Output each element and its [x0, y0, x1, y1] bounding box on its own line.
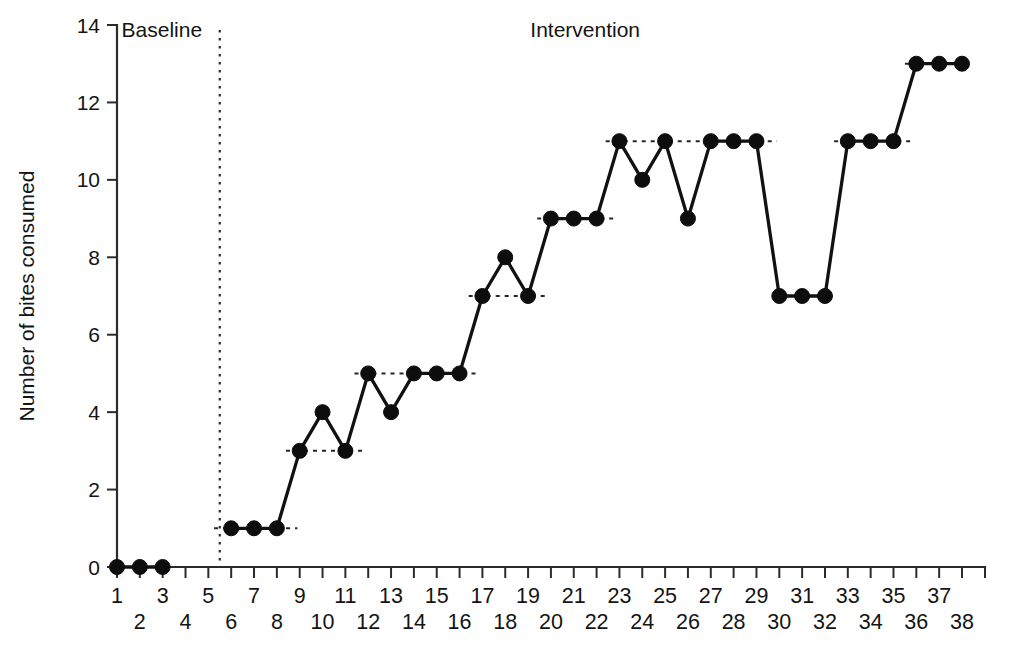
x-tick-label-odd: 15 [425, 584, 449, 608]
data-point [543, 211, 558, 226]
data-point [224, 521, 239, 536]
data-point [932, 56, 947, 71]
x-tick-label-even: 6 [225, 610, 237, 634]
x-tick-label-even: 34 [859, 610, 883, 634]
data-point [840, 134, 855, 149]
bites-consumed-line-chart: 02468101214 1234567891011121314151617181… [0, 0, 1017, 654]
data-point [909, 56, 924, 71]
x-tick-label-even: 18 [493, 610, 517, 634]
y-tick-label: 12 [77, 91, 100, 114]
x-tick-label-even: 32 [813, 610, 837, 634]
data-point [452, 366, 467, 381]
x-tick-label-even: 14 [402, 610, 426, 634]
chart-container: 02468101214 1234567891011121314151617181… [0, 0, 1017, 654]
x-tick-label-odd: 19 [516, 584, 540, 608]
x-tick-label-odd: 33 [836, 584, 860, 608]
data-point [384, 405, 399, 420]
data-point [726, 134, 741, 149]
x-tick-label-even: 16 [448, 610, 472, 634]
data-point [749, 134, 764, 149]
y-tick-label: 6 [88, 323, 100, 346]
data-point [955, 56, 970, 71]
x-tick-label-even: 28 [722, 610, 746, 634]
x-tick-label-odd: 11 [334, 584, 356, 608]
data-point [361, 366, 376, 381]
data-point [521, 289, 536, 304]
y-axis-label-text: Number of bites consumed [15, 171, 38, 422]
x-tick-label-odd: 37 [927, 584, 951, 608]
data-point [589, 211, 604, 226]
data-point [703, 134, 718, 149]
data-point [635, 172, 650, 187]
x-tick-label-odd: 13 [379, 584, 403, 608]
y-tick-label: 8 [88, 246, 100, 269]
data-point [863, 134, 878, 149]
x-tick-label-odd: 21 [562, 584, 586, 608]
x-tick-label-odd: 31 [790, 584, 814, 608]
data-point [292, 443, 307, 458]
data-point [110, 560, 125, 575]
data-point [315, 405, 330, 420]
data-point [132, 560, 147, 575]
x-tick-label-odd: 3 [157, 584, 169, 608]
y-tick-label: 14 [77, 14, 101, 37]
x-tick-label-even: 26 [676, 610, 700, 634]
x-tick-label-even: 10 [311, 610, 335, 634]
x-tick-label-even: 30 [767, 610, 791, 634]
x-tick-label-even: 36 [904, 610, 928, 634]
x-tick-label-even: 8 [271, 610, 283, 634]
y-axis-title: Number of bites consumed [15, 171, 38, 422]
data-point [772, 289, 787, 304]
data-point [338, 443, 353, 458]
data-point [475, 289, 490, 304]
x-tick-label-odd: 35 [882, 584, 906, 608]
data-point [795, 289, 810, 304]
chart-background [0, 0, 1017, 654]
data-point [155, 560, 170, 575]
x-tick-label-even: 2 [134, 610, 146, 634]
data-point [680, 211, 695, 226]
x-tick-label-odd: 29 [744, 584, 768, 608]
x-tick-label-odd: 1 [111, 584, 123, 608]
x-tick-label-odd: 23 [607, 584, 631, 608]
x-tick-label-even: 22 [585, 610, 609, 634]
x-tick-label-odd: 9 [294, 584, 306, 608]
data-point [429, 366, 444, 381]
data-point [566, 211, 581, 226]
x-tick-label-odd: 5 [202, 584, 214, 608]
x-tick-label-odd: 27 [699, 584, 723, 608]
data-point [498, 250, 513, 265]
y-tick-label: 10 [77, 168, 100, 191]
data-point [269, 521, 284, 536]
x-tick-label-odd: 25 [653, 584, 677, 608]
x-tick-label-odd: 17 [470, 584, 494, 608]
data-point [886, 134, 901, 149]
x-tick-label-even: 24 [630, 610, 654, 634]
y-tick-label: 0 [88, 556, 100, 579]
data-point [406, 366, 421, 381]
data-point [658, 134, 673, 149]
phase-label-intervention: Intervention [530, 18, 640, 41]
x-tick-label-even: 12 [356, 610, 380, 634]
y-tick-label: 4 [88, 401, 100, 424]
phase-label-baseline: Baseline [122, 18, 203, 41]
y-tick-label: 2 [88, 478, 100, 501]
data-point [247, 521, 262, 536]
x-tick-label-odd: 7 [248, 584, 260, 608]
data-point [817, 289, 832, 304]
x-tick-label-even: 20 [539, 610, 563, 634]
data-point [612, 134, 627, 149]
x-tick-label-even: 38 [950, 610, 974, 634]
x-tick-label-even: 4 [180, 610, 192, 634]
